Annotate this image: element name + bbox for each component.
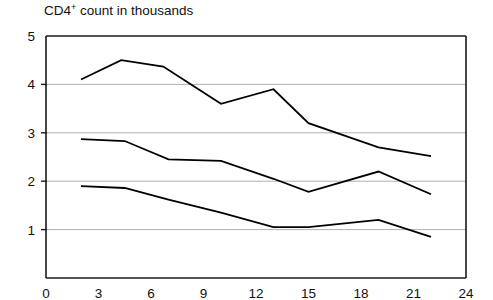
series-line-upper	[81, 60, 431, 156]
xtick-label-0: 0	[42, 286, 50, 300]
xtick-label-9: 9	[200, 286, 208, 300]
xtick-label-3: 3	[95, 286, 103, 300]
ytick-label-4: 4	[27, 77, 35, 92]
ytick-label-5: 5	[27, 29, 35, 44]
xtick-label-12: 12	[248, 286, 263, 300]
ytick-label-1: 1	[27, 223, 35, 238]
xtick-label-6: 6	[147, 286, 155, 300]
line-chart-plot: 1234503691215182124	[0, 0, 493, 300]
xtick-label-21: 21	[406, 286, 421, 300]
xtick-label-15: 15	[301, 286, 316, 300]
ytick-label-2: 2	[27, 174, 35, 189]
chart-figure: CD4+ count in thousands 1234503691215182…	[0, 0, 493, 300]
ytick-label-3: 3	[27, 126, 35, 141]
xtick-label-24: 24	[458, 286, 474, 300]
xtick-label-18: 18	[353, 286, 368, 300]
